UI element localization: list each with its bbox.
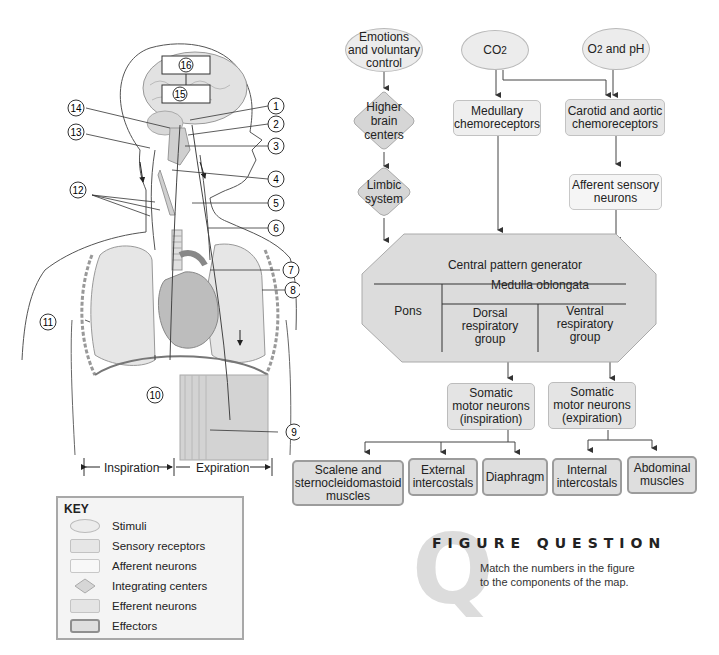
ellipse-swatch-icon: [70, 519, 100, 533]
figure-question-title: FIGURE QUESTION: [432, 535, 666, 551]
cpg-medulla-oblongata: Medulla oblongata: [460, 279, 620, 292]
cpg-pons: Pons: [378, 305, 438, 318]
rect-light-swatch-icon: [70, 559, 100, 573]
legend-item-effectors: Effectors: [70, 618, 157, 634]
effector-internal-intercostals: Internal intercostals: [552, 458, 622, 496]
legend-item-efferent-neurons: Efferent neurons: [70, 598, 197, 614]
stimulus-co2: CO2: [461, 30, 529, 70]
medullary-chemoreceptors: Medullary chemoreceptors: [453, 100, 541, 136]
legend-title: KEY: [64, 502, 89, 516]
ventral-respiratory-group: Ventral respiratory group: [541, 305, 629, 344]
limbic-system: Limbic system: [356, 166, 412, 218]
dorsal-respiratory-group: Dorsal respiratory group: [445, 307, 535, 346]
rect-bold-swatch-icon: [70, 619, 100, 633]
effector-abdominal-muscles: Abdominal muscles: [627, 456, 697, 494]
legend-item-integrating-centers: Integrating centers: [70, 578, 207, 594]
legend-item-afferent-neurons: Afferent neurons: [70, 558, 197, 574]
effector-diaphragm: Diaphragm: [482, 458, 548, 496]
stimulus-emotions: Emotions and voluntary control: [345, 28, 423, 72]
legend-item-stimuli: Stimuli: [70, 518, 147, 534]
stimulus-o2-ph: O2 and pH: [582, 28, 650, 70]
effector-external-intercostals: External intercostals: [408, 458, 478, 496]
legend-key: KEY Stimuli Sensory receptors Afferent n…: [56, 496, 244, 640]
afferent-sensory-neurons: Afferent sensory neurons: [569, 174, 662, 210]
effector-scalene-sternocleidomastoid: Scalene and sternocleidomastoid muscles: [292, 460, 404, 506]
diamond-swatch-icon: [70, 578, 100, 594]
somatic-motor-neurons-expiration: Somatic motor neurons (expiration): [548, 382, 636, 429]
legend-item-sensory-receptors: Sensory receptors: [70, 538, 205, 554]
rect-swatch-icon: [70, 599, 100, 613]
higher-brain-centers: Higher brain centers: [352, 90, 416, 152]
figure-question-text: Match the numbers in the figure to the c…: [480, 561, 635, 589]
rect-swatch-icon: [70, 539, 100, 553]
carotid-aortic-chemoreceptors: Carotid and aortic chemoreceptors: [565, 99, 665, 136]
cpg-title: Central pattern generator: [440, 259, 590, 272]
somatic-motor-neurons-inspiration: Somatic motor neurons (inspiration): [447, 383, 535, 430]
